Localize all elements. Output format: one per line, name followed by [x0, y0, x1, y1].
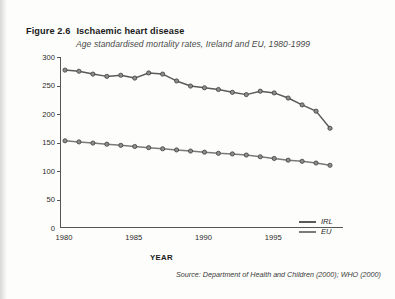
figure-number: Figure 2.6: [26, 26, 70, 36]
x-tick-label: 1980: [47, 233, 81, 242]
data-point[interactable]: [286, 158, 290, 162]
data-point[interactable]: [91, 72, 95, 76]
y-tick-mark: [57, 143, 60, 144]
y-tick-label: 50: [29, 195, 55, 204]
y-tick-label: 100: [29, 167, 55, 176]
data-point[interactable]: [216, 151, 220, 155]
data-point[interactable]: [133, 144, 137, 148]
data-point[interactable]: [119, 73, 123, 77]
figure-subtitle: Age standardised mortality rates, Irelan…: [76, 39, 310, 49]
y-tick-mark: [57, 86, 60, 87]
data-point[interactable]: [328, 163, 332, 167]
data-point[interactable]: [174, 148, 178, 152]
data-point[interactable]: [230, 90, 234, 94]
data-point[interactable]: [300, 103, 304, 107]
page-title: Ischaemic heart disease: [70, 26, 184, 36]
y-tick-mark: [57, 200, 60, 201]
y-tick-label: 150: [29, 138, 55, 147]
data-point[interactable]: [174, 79, 178, 83]
x-tick-label: 1995: [256, 233, 290, 242]
data-point[interactable]: [202, 86, 206, 90]
figure-heading: Figure 2.6Ischaemic heart disease: [26, 26, 184, 36]
data-point[interactable]: [133, 76, 137, 80]
y-tick-mark: [57, 171, 60, 172]
y-tick-label: 200: [29, 110, 55, 119]
data-point[interactable]: [105, 142, 109, 146]
y-tick-label: 0: [29, 224, 55, 233]
data-point[interactable]: [161, 72, 165, 76]
data-point[interactable]: [188, 84, 192, 88]
chart-legend: IRL EU: [299, 217, 333, 237]
legend-label-eu: EU: [321, 227, 332, 237]
data-point[interactable]: [216, 87, 220, 91]
plot-area: [60, 57, 343, 228]
legend-swatch-eu: [299, 231, 316, 233]
y-tick-mark: [57, 57, 60, 58]
data-point[interactable]: [119, 143, 123, 147]
data-point[interactable]: [188, 149, 192, 153]
source-note: Source: Department of Health and Childre…: [0, 270, 381, 279]
data-point[interactable]: [77, 69, 81, 73]
data-point[interactable]: [244, 93, 248, 97]
data-point[interactable]: [91, 141, 95, 145]
x-tick-label: 1990: [186, 233, 220, 242]
data-point[interactable]: [105, 74, 109, 78]
data-point[interactable]: [244, 153, 248, 157]
data-point[interactable]: [258, 155, 262, 159]
x-tick-label: 1985: [117, 233, 151, 242]
data-point[interactable]: [230, 152, 234, 156]
data-point[interactable]: [272, 156, 276, 160]
y-tick-label: 300: [29, 53, 55, 62]
legend-swatch-irl: [299, 221, 316, 223]
legend-item-irl[interactable]: IRL: [299, 217, 333, 227]
data-point[interactable]: [314, 161, 318, 165]
data-point[interactable]: [63, 139, 67, 143]
legend-item-eu[interactable]: EU: [299, 227, 333, 237]
data-point[interactable]: [258, 89, 262, 93]
data-point[interactable]: [300, 159, 304, 163]
y-tick-mark: [57, 114, 60, 115]
x-axis-label: YEAR: [150, 253, 173, 262]
data-point[interactable]: [286, 96, 290, 100]
data-point[interactable]: [161, 147, 165, 151]
legend-label-irl: IRL: [321, 217, 333, 227]
y-tick-label: 250: [29, 81, 55, 90]
chart-canvas: [61, 57, 344, 228]
data-point[interactable]: [63, 68, 67, 72]
figure-page: Figure 2.6Ischaemic heart disease Age st…: [0, 0, 395, 299]
data-point[interactable]: [147, 71, 151, 75]
data-point[interactable]: [147, 146, 151, 150]
data-point[interactable]: [272, 91, 276, 95]
data-point[interactable]: [202, 150, 206, 154]
data-point[interactable]: [314, 109, 318, 113]
page-edge-shadow-left: [0, 0, 7, 299]
data-point[interactable]: [328, 126, 332, 130]
data-point[interactable]: [77, 140, 81, 144]
